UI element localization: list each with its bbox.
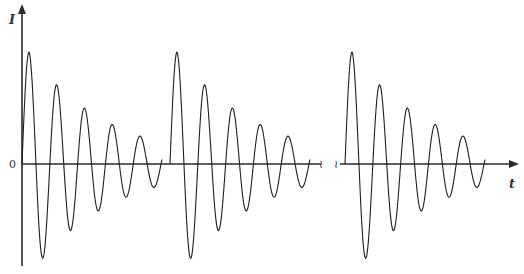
x-axis-arrow-icon [509,160,519,168]
damped-wave-burst-1 [22,52,162,258]
damped-wave-burst-2 [170,52,310,258]
diagram-canvas: I 0 ≀ ≀ t [0,0,524,274]
axis-break-right-icon: ≀ [334,158,338,171]
damped-wave-burst-3 [345,52,485,258]
y-axis-label: I [8,12,16,27]
axis-break-left-icon: ≀ [319,158,323,171]
x-axis: ≀ ≀ [22,158,519,171]
y-axis [18,4,26,266]
y-axis-arrow-icon [18,4,26,14]
x-axis-label: t [509,176,515,191]
wave-group [22,52,485,258]
damped-oscillation-diagram: I 0 ≀ ≀ t [0,0,524,274]
origin-label: 0 [9,158,16,171]
